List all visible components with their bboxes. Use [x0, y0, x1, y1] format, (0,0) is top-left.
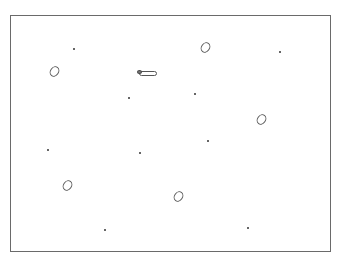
dot-point	[279, 51, 281, 53]
dot-point	[128, 97, 130, 99]
dot-point	[73, 48, 75, 50]
dot-point	[207, 140, 209, 142]
dot-point	[47, 149, 49, 151]
canvas-frame	[10, 15, 331, 252]
dot-point	[104, 229, 106, 231]
dot-point	[247, 227, 249, 229]
dot-point	[194, 93, 196, 95]
pill-tip-shape	[137, 70, 142, 74]
dot-point	[139, 152, 141, 154]
